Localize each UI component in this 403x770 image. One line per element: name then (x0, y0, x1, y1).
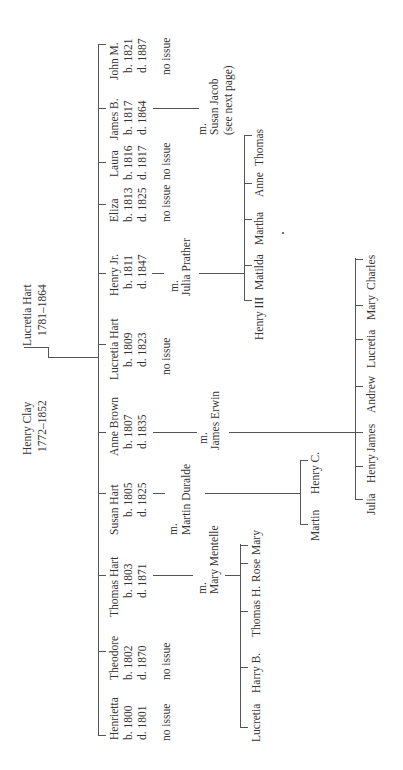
gc-tick (240, 545, 248, 546)
child-died: d. 1871 (136, 564, 148, 599)
spouse-married: m. (167, 523, 179, 535)
spouse-married: m. (196, 582, 208, 594)
tick-jamesb (98, 108, 106, 109)
child-born: b. 1821 (122, 39, 134, 74)
thomas-spouse-line (153, 575, 193, 576)
thomas-issue-line (225, 575, 240, 576)
child-note: no issue (160, 643, 172, 680)
parents-descent-line (48, 357, 98, 358)
child-note: no issue (160, 704, 172, 741)
grandchild-name: Matilda (253, 254, 265, 290)
anne-issue-line (229, 432, 355, 433)
grandchild-name: Thomas (253, 129, 265, 166)
grandchild-name: Thomas H. (250, 586, 262, 637)
grandchild-name: Julia (365, 493, 377, 515)
child-born: b. 1813 (122, 188, 134, 223)
grandchild-name: Charles (365, 255, 377, 290)
child-note: no issue (160, 185, 172, 222)
child-born: b. 1811 (122, 255, 134, 289)
spouse-married: m. (196, 123, 208, 135)
gc-tick (240, 563, 248, 564)
child-died: d. 1817 (136, 146, 148, 181)
tick-laura (98, 162, 106, 163)
child-born: b. 1817 (122, 101, 134, 136)
grandchild-name: Henry III (253, 297, 265, 340)
child-born: b. 1800 (122, 706, 134, 741)
child-name: Henry Jr. (108, 254, 120, 296)
grandchild-name: Mary (250, 530, 262, 555)
susan-spouse-line (153, 493, 165, 494)
children-bracket (98, 44, 99, 736)
henryjr-issue-line (199, 273, 244, 274)
spouse-name: Susan Jacob (208, 78, 220, 135)
henryjr-spouse-line (152, 273, 164, 274)
grandchild-name: Henry C. (309, 452, 321, 494)
mother-dates: 1781–1864 (36, 284, 48, 336)
grandchild-name: Anne (253, 172, 265, 197)
child-name: John M. (108, 42, 120, 80)
gc-tick (244, 135, 252, 136)
susan-grandchildren-bracket (300, 460, 301, 525)
gc-tick (355, 386, 363, 387)
child-died: d. 1887 (136, 39, 148, 74)
grandchild-name: Henry (365, 454, 377, 483)
child-name: Eliza (108, 198, 120, 222)
gc-tick (244, 219, 252, 220)
jamesb-spouse-line (153, 108, 199, 109)
gc-tick (240, 667, 248, 668)
child-born: b. 1809 (122, 333, 134, 368)
child-born: b. 1816 (122, 146, 134, 181)
tick-thomas (98, 575, 106, 576)
tick-eliza (98, 204, 106, 205)
anne-spouse-line (153, 432, 197, 433)
tick-henryjr (98, 273, 106, 274)
gc-tick (244, 300, 252, 301)
child-name: Lucretia Hart (108, 318, 120, 380)
gc-tick (355, 432, 363, 433)
gc-tick (355, 259, 363, 260)
child-born: b. 1802 (122, 646, 134, 681)
tick-susan (98, 493, 106, 494)
father-dates: 1772–1852 (36, 400, 48, 452)
tick-johnm (98, 44, 106, 45)
spouse-note: (see next page) (222, 65, 234, 135)
anne-grandchildren-bracket (355, 258, 356, 500)
tick-lucretia (98, 344, 106, 345)
child-note: no issue (160, 338, 172, 375)
child-died: d. 1825 (136, 188, 148, 223)
gc-tick (355, 466, 363, 467)
tick-theodore (98, 651, 106, 652)
child-born: b. 1803 (122, 564, 134, 599)
child-died: d. 1870 (136, 646, 148, 681)
spouse-name: Mary Mentelle (208, 525, 220, 594)
father-name: Henry Clay (21, 402, 33, 455)
child-died: d. 1825 (136, 483, 148, 518)
grandchild-name: Rose (250, 559, 262, 582)
gc-tick (355, 499, 363, 500)
gc-tick (244, 183, 252, 184)
child-name: Susan Hart (108, 484, 120, 535)
child-died: d. 1823 (136, 333, 148, 368)
gc-tick (240, 727, 248, 728)
spouse-married: m. (168, 280, 180, 292)
susan-issue-line (205, 493, 300, 494)
child-name: James B. (108, 98, 120, 140)
child-name: Henrietta (108, 697, 120, 740)
gc-tick (244, 265, 252, 266)
child-born: b. 1805 (122, 483, 134, 518)
grandchild-name: Harry B. (250, 653, 262, 693)
child-note: no issue (160, 143, 172, 180)
grandchild-name: Andrew (365, 376, 377, 413)
parents-descent-line-a (48, 347, 49, 357)
spouse-name: Martin Duralde (180, 464, 192, 535)
marriage-divider (24, 347, 48, 348)
spouse-married: m. (197, 432, 209, 444)
child-name: Theodore (108, 636, 120, 680)
grandchild-name: Lucretia (250, 704, 262, 742)
spouse-name: James Erwin (209, 391, 221, 450)
gc-tick (300, 460, 308, 461)
grandchild-name: Martin (309, 510, 321, 541)
tick-henrietta (98, 735, 106, 736)
child-born: b. 1807 (122, 415, 134, 450)
grandchild-name: Mary (365, 295, 377, 320)
